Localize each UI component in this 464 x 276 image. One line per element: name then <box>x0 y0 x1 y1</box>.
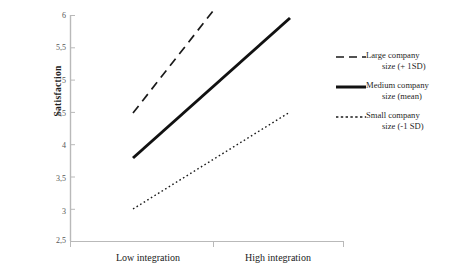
y-axis-tick-label: 6 <box>32 12 66 20</box>
x-axis-tick-label-high: High integration <box>218 252 338 263</box>
chart-legend: Large company size (+ 1SD) Medium compan… <box>336 50 462 140</box>
y-axis-tick-label: 5 <box>32 77 66 85</box>
legend-label-small: Small company size (-1 SD) <box>366 110 424 131</box>
legend-item-small: Small company size (-1 SD) <box>336 110 462 131</box>
legend-label-medium-line2: size (mean) <box>366 91 429 102</box>
legend-label-medium-line1: Medium company <box>366 80 429 91</box>
legend-item-medium: Medium company size (mean) <box>336 80 462 101</box>
series-line-medium <box>133 18 290 158</box>
y-axis-tick-label: 4 <box>32 142 66 150</box>
legend-label-large-line2: size (+ 1SD) <box>366 61 426 72</box>
y-axis-tick-label: 3,5 <box>32 175 66 183</box>
legend-item-large: Large company size (+ 1SD) <box>336 50 462 71</box>
y-axis-tick-label: 2,5 <box>32 237 66 245</box>
series-line-small <box>133 112 290 209</box>
legend-key-dashed-icon <box>336 50 366 64</box>
legend-label-small-line2: size (-1 SD) <box>366 121 424 132</box>
x-axis-tick-label-low: Low integration <box>88 252 208 263</box>
legend-label-medium: Medium company size (mean) <box>366 80 429 101</box>
y-axis-tick-label: 3 <box>32 208 66 216</box>
legend-key-solid-icon <box>336 80 366 94</box>
legend-key-dotted-icon <box>336 110 366 124</box>
y-axis-tick-label: 4,5 <box>32 110 66 118</box>
legend-label-small-line1: Small company <box>366 110 424 121</box>
chart-figure: Satisfaction 6 5,5 5 4,5 4 3,5 3 2,5 Low… <box>0 0 464 276</box>
y-axis-tick-label: 5,5 <box>32 44 66 52</box>
legend-label-large-line1: Large company <box>366 50 426 61</box>
legend-label-large: Large company size (+ 1SD) <box>366 50 426 71</box>
